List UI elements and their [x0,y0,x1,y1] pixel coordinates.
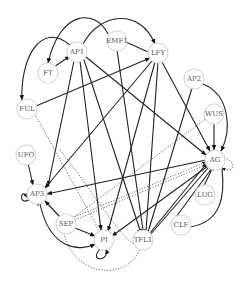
node-AP1[interactable]: AP1 [67,42,87,62]
node-label: SEP [59,220,74,228]
node-TFL1[interactable]: TFL1 [133,230,153,250]
node-LUG[interactable]: LUG [195,185,215,205]
node-LFY[interactable]: LFY [148,43,168,63]
node-AG[interactable]: AG [205,150,225,170]
node-label: EMF1 [106,37,128,45]
node-label: LFY [151,49,166,57]
node-label: AP3 [29,190,44,198]
node-label: TFL1 [134,236,153,244]
node-AP3[interactable]: AP3 [27,184,47,204]
node-CLF[interactable]: CLF [171,215,191,235]
node-label: WUS [205,110,223,118]
node-label: FUL [19,105,35,113]
node-label: CLF [174,221,189,229]
node-label: UFO [18,151,35,159]
node-SEP[interactable]: SEP [56,214,76,234]
node-label: AP1 [69,48,84,56]
node-PI[interactable]: PI [94,230,114,250]
node-FUL[interactable]: FUL [17,99,37,119]
node-EMF1[interactable]: EMF1 [106,31,128,51]
node-UFO[interactable]: UFO [16,145,36,165]
node-FT[interactable]: FT [38,63,58,83]
edges [22,18,233,271]
node-label: FT [43,69,53,77]
node-label: PI [100,236,108,244]
node-WUS[interactable]: WUS [204,104,224,124]
node-label: LUG [197,191,213,199]
node-label: AP2 [186,75,201,83]
node-label: AG [209,156,221,164]
node-AP2[interactable]: AP2 [184,69,204,89]
gene-network-diagram: AP1 EMF1 LFY FT FUL AP2 WUS AG LUG CLF T… [0,0,248,284]
